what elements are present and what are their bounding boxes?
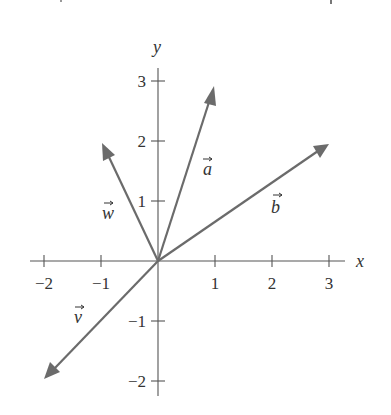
x-axis-label: x [355, 251, 364, 271]
vectors [44, 86, 329, 379]
svg-text:v: v [74, 307, 82, 327]
label-v: v [74, 305, 84, 327]
y-axis-label: y [151, 37, 161, 57]
vector-diagram: −2 −1 1 2 3 3 2 1 −1 −2 x y [0, 0, 391, 415]
y-tick-label: 3 [138, 72, 147, 91]
x-tick-label: −1 [92, 274, 110, 293]
x-tick-label: −2 [35, 274, 53, 293]
svg-text:a: a [203, 159, 212, 179]
y-tick-label: 2 [138, 132, 147, 151]
y-tick-label: −1 [128, 312, 146, 331]
x-tick-label: 3 [325, 274, 334, 293]
y-tick-label: 1 [138, 192, 147, 211]
vector-w [102, 143, 158, 261]
arrowhead-icon [204, 86, 216, 106]
label-w: w [102, 201, 114, 223]
x-tick-label: 1 [211, 274, 220, 293]
arrowhead-icon [313, 144, 329, 158]
svg-text:b: b [271, 197, 280, 217]
label-b: b [271, 193, 282, 217]
x-tick-labels: −2 −1 1 2 3 [35, 274, 333, 293]
vector-labels: a b w v [74, 157, 282, 327]
x-tick-label: 2 [268, 274, 277, 293]
y-tick-label: −2 [128, 372, 146, 391]
label-a: a [203, 157, 212, 179]
svg-text:w: w [102, 203, 114, 223]
clipped-text-remnant [60, 0, 332, 4]
vector-b [158, 144, 329, 261]
